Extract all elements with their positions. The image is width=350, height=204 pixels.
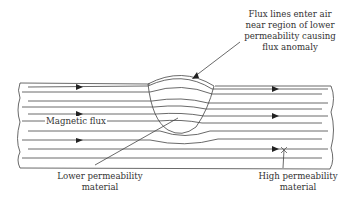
arrow-right-icon (272, 113, 279, 119)
arrow-right-icon (272, 146, 279, 152)
label-line: flux anomaly (232, 42, 348, 53)
label-flux-anomaly: Flux lines enter air near region of lowe… (232, 9, 348, 53)
label-line: permeability causing (232, 31, 348, 42)
label-line: Flux lines enter air (232, 9, 348, 20)
label-lower-permeability: Lower permeability material (40, 171, 160, 193)
label-high-permeability: High permeability material (238, 171, 350, 193)
label-line: near region of lower (232, 20, 348, 31)
leader-high (283, 150, 284, 168)
label-magnetic-flux: Magnetic flux (45, 116, 107, 127)
arrowhead-icon (192, 72, 199, 79)
arrow-right-icon (76, 84, 83, 90)
arrow-right-icon (272, 86, 279, 92)
arrow-right-icon (76, 138, 83, 143)
label-line: material (238, 182, 350, 193)
label-line: Lower permeability (40, 171, 160, 182)
label-line: High permeability (238, 171, 350, 182)
label-line: material (40, 182, 160, 193)
